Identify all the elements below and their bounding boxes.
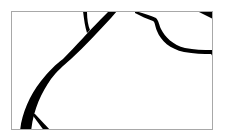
top-right-corner-wedge <box>197 11 213 20</box>
bottom-left-diagonal-stroke <box>31 113 51 130</box>
line-art-drawing <box>11 11 213 130</box>
image-canvas: Cropped fragment of black line-art drawi… <box>0 0 225 137</box>
thick-curved-stroke <box>20 11 117 130</box>
image-frame <box>11 11 213 130</box>
thin-branch-stroke <box>83 11 90 33</box>
upper-right-curved-outline <box>135 11 213 54</box>
